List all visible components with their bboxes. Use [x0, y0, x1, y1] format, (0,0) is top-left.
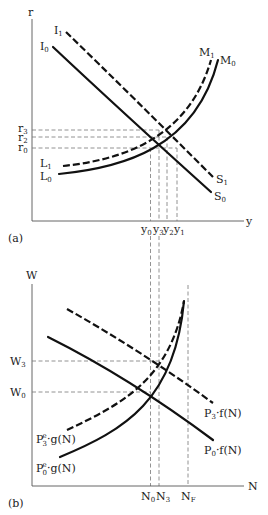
svg-text:Pe0·g(N): Pe0·g(N): [36, 461, 76, 477]
s1-label: S: [216, 173, 224, 186]
m0-label: M: [220, 54, 231, 67]
svg-text:N0: N0: [141, 490, 155, 504]
svg-text:y1: y1: [173, 223, 185, 237]
panel-a: r y I0 I1 S0 S1 L0 L1 M0 M1 r3 r2 r0 y0 …: [8, 6, 253, 245]
y-axis-label: y: [245, 215, 253, 228]
panel-b-caption: (b): [8, 497, 24, 510]
svg-text:W3: W3: [10, 355, 26, 369]
panel-a-caption: (a): [8, 232, 23, 245]
svg-text:y2: y2: [162, 223, 174, 237]
r-axis-label: r: [28, 6, 34, 19]
w0-label: W: [10, 386, 22, 399]
n0-label: N: [141, 490, 151, 503]
svg-text:M0: M0: [220, 54, 236, 68]
labor-supply-p3e: [67, 301, 184, 430]
n3-label: N: [156, 490, 166, 503]
svg-text:S1: S1: [216, 173, 228, 187]
svg-text:W0: W0: [10, 386, 26, 400]
svg-text:N3: N3: [156, 490, 170, 504]
svg-text:y0: y0: [140, 223, 152, 237]
svg-text:Pe3·g(N): Pe3·g(N): [36, 432, 76, 448]
svg-text:y3: y3: [152, 223, 164, 237]
nf-label: N: [181, 490, 191, 503]
svg-text:P3·f(N): P3·f(N): [204, 407, 242, 421]
svg-text:M1: M1: [199, 46, 215, 60]
svg-text:L0: L0: [40, 170, 52, 184]
svg-text:L1: L1: [40, 157, 52, 171]
w-axis-label: W: [26, 269, 38, 282]
svg-text:S0: S0: [214, 190, 226, 204]
s0-label: S: [214, 190, 222, 203]
svg-text:P0·f(N): P0·f(N): [204, 444, 242, 458]
svg-text:NF: NF: [181, 490, 196, 504]
panel-b: W N W3 W0 N0 N3 NF P3·f(N) P0·f(N) Pe3·g…: [8, 269, 258, 510]
svg-text:I0: I0: [40, 40, 49, 54]
lm-curve-0: [59, 60, 218, 174]
svg-text:I1: I1: [54, 24, 63, 38]
m1-label: M: [199, 46, 210, 59]
w3-label: W: [10, 355, 22, 368]
is-lm-labor-market-diagram: r y I0 I1 S0 S1 L0 L1 M0 M1 r3 r2 r0 y0 …: [0, 0, 268, 515]
n-axis-label: N: [248, 480, 258, 493]
